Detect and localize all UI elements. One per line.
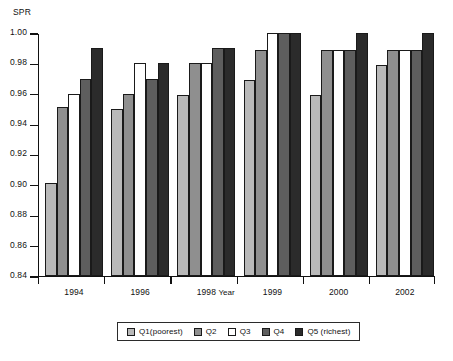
bar: [68, 94, 80, 276]
bar-group: [244, 34, 302, 276]
y-axis-tick-label: 0.92: [10, 148, 27, 158]
y-axis-tick-label: 0.88: [10, 209, 27, 219]
bar-chart: SPR 1.000.980.960.940.920.900.880.860.84…: [0, 0, 453, 361]
bar: [267, 33, 279, 276]
bar-group: [177, 34, 235, 276]
bar: [134, 63, 146, 276]
bar: [387, 50, 399, 276]
legend-item-label: Q1(poorest): [139, 327, 183, 336]
bar: [411, 50, 423, 276]
y-axis-tick-label: 0.98: [10, 57, 27, 67]
bar: [333, 50, 345, 276]
bar: [158, 63, 170, 276]
x-axis-tick: [303, 277, 304, 284]
bar-group: [310, 34, 368, 276]
bar: [290, 33, 302, 276]
y-axis-tick: 0.84: [30, 276, 38, 277]
bar: [278, 33, 290, 276]
legend-item-label: Q4: [274, 327, 285, 336]
y-axis-tick: 0.98: [30, 64, 38, 65]
bar: [224, 48, 236, 276]
bar: [212, 48, 224, 276]
y-axis-title: SPR: [13, 7, 31, 17]
y-axis-tick-label: 0.86: [10, 240, 27, 250]
x-axis-tick: [369, 277, 370, 284]
bar: [422, 33, 434, 276]
bar: [189, 63, 201, 276]
x-axis-tick: [170, 277, 171, 284]
y-axis-tick: 0.90: [30, 185, 38, 186]
legend-item[interactable]: Q2: [194, 327, 217, 336]
y-axis-tick: 0.88: [30, 216, 38, 217]
bar: [111, 109, 123, 276]
bar: [344, 50, 356, 276]
y-axis-line: [38, 34, 39, 277]
bar: [80, 79, 92, 276]
bar: [356, 33, 368, 276]
chart-legend: Q1(poorest)Q2Q3Q4Q5 (richest): [117, 322, 360, 341]
x-axis-tick: [237, 277, 238, 284]
bar: [399, 50, 411, 276]
y-axis-tick: 0.92: [30, 155, 38, 156]
bar-group: [45, 34, 103, 276]
bar: [45, 183, 57, 276]
y-axis-tick: 0.86: [30, 246, 38, 247]
legend-swatch-icon: [194, 328, 202, 336]
legend-item[interactable]: Q1(poorest): [127, 327, 183, 336]
bar-group: [111, 34, 169, 276]
legend-item[interactable]: Q3: [228, 327, 251, 336]
bar: [321, 50, 333, 276]
bar: [244, 80, 256, 276]
legend-item-label: Q2: [206, 327, 217, 336]
legend-swatch-icon: [295, 328, 303, 336]
legend-item[interactable]: Q4: [262, 327, 285, 336]
legend-swatch-icon: [262, 328, 270, 336]
y-axis-tick-label: 0.90: [10, 179, 27, 189]
y-axis-tick: 0.94: [30, 125, 38, 126]
bar-group: [376, 34, 434, 276]
bar: [310, 95, 322, 276]
x-axis-tick: [104, 277, 105, 284]
bar: [91, 48, 103, 276]
y-axis-tick: 0.96: [30, 94, 38, 95]
y-axis-tick: 1.00: [30, 33, 38, 34]
bar: [255, 50, 267, 276]
y-axis-tick-label: 1.00: [10, 27, 27, 37]
y-axis-tick-label: 0.94: [10, 118, 27, 128]
legend-swatch-icon: [228, 328, 236, 336]
legend-item-label: Q3: [240, 327, 251, 336]
legend-item-label: Q5 (richest): [307, 327, 350, 336]
y-axis-tick-label: 0.96: [10, 88, 27, 98]
bar: [201, 63, 213, 276]
bar: [177, 95, 189, 276]
x-axis-tick: [38, 277, 39, 284]
bar: [123, 94, 135, 276]
legend-swatch-icon: [127, 328, 135, 336]
bar: [57, 107, 69, 276]
plot-area: 1.000.980.960.940.920.900.880.860.84 199…: [38, 34, 435, 277]
legend-item[interactable]: Q5 (richest): [295, 327, 350, 336]
bar: [146, 79, 158, 276]
x-axis-title: Year: [0, 288, 453, 297]
bar: [376, 65, 388, 276]
x-axis-tick: [434, 277, 435, 284]
y-axis-tick-label: 0.84: [10, 270, 27, 280]
